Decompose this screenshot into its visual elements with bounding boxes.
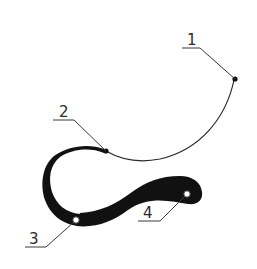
callout-label: 4 <box>143 204 153 222</box>
hollow-circle-marker-icon <box>184 191 190 197</box>
thick-blob <box>76 176 202 226</box>
callout-label: 3 <box>29 230 39 248</box>
diagram-canvas: 1 2 3 4 <box>0 0 257 269</box>
callout-2: 2 <box>53 103 109 154</box>
callout-label: 2 <box>59 103 69 121</box>
hollow-circle-marker-icon <box>73 217 79 223</box>
thin-curve <box>106 80 234 161</box>
callout-1: 1 <box>182 31 238 82</box>
leader-line <box>182 48 235 79</box>
callout-label: 1 <box>187 31 197 49</box>
